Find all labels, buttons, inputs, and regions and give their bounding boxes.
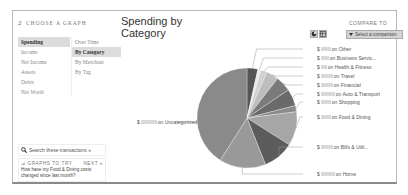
redacted-amount xyxy=(321,56,329,60)
leader-line xyxy=(283,84,303,85)
spending-pie-chart[interactable] xyxy=(13,11,398,185)
leader-line xyxy=(252,49,303,68)
leader-line xyxy=(242,168,303,174)
pie-label: $on Health & Fitness xyxy=(317,64,371,70)
redacted-amount xyxy=(321,100,331,104)
leader-line xyxy=(259,58,303,70)
redacted-amount xyxy=(141,120,157,124)
redacted-amount xyxy=(321,92,335,96)
redacted-amount xyxy=(321,83,333,87)
pie-label: $on Other xyxy=(317,46,351,52)
redacted-amount xyxy=(321,115,331,119)
pie-label: $on Shopping xyxy=(317,99,360,105)
redacted-amount xyxy=(321,47,331,51)
pie-label: $on Bills & Utili... xyxy=(317,144,369,150)
pie-label: $on Business Servic... xyxy=(317,55,376,61)
redacted-amount xyxy=(321,145,333,149)
redacted-amount xyxy=(321,74,333,78)
redacted-amount xyxy=(321,172,335,176)
pie-label: $on Food & Dining xyxy=(317,114,370,120)
pie-label: $on Home xyxy=(317,171,356,177)
redacted-amount xyxy=(321,65,327,69)
pie-label: $on Uncategorized xyxy=(137,119,197,125)
leader-line xyxy=(293,94,303,97)
leader-line xyxy=(272,75,303,76)
pie-label: $on Auto & Transport xyxy=(317,91,380,97)
graph-panel: 2 Choose a Graph Spending Income Net Inc… xyxy=(12,10,397,184)
leader-line xyxy=(296,102,303,109)
pie-label: $on Travel xyxy=(317,73,354,79)
leader-line xyxy=(264,67,303,71)
pie-label: $on Financial xyxy=(317,82,361,88)
